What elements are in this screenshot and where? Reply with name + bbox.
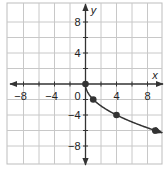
x-tick-label: 8 bbox=[144, 90, 150, 102]
y-tick-label: 4 bbox=[74, 47, 80, 59]
x-tick-label: −4 bbox=[45, 90, 58, 102]
origin-label: 0 bbox=[74, 90, 80, 102]
x-tick-label: −8 bbox=[14, 90, 27, 102]
data-point bbox=[113, 112, 120, 119]
x-tick-label: 4 bbox=[113, 90, 119, 102]
y-tick-label: −8 bbox=[68, 140, 81, 152]
data-point bbox=[82, 81, 89, 88]
function-graph: −8−44884−4−80xy bbox=[0, 0, 166, 169]
x-axis-label: x bbox=[151, 69, 158, 81]
y-tick-label: −4 bbox=[68, 109, 81, 121]
y-tick-label: 8 bbox=[74, 16, 80, 28]
data-point bbox=[90, 96, 97, 103]
data-point bbox=[152, 127, 159, 134]
